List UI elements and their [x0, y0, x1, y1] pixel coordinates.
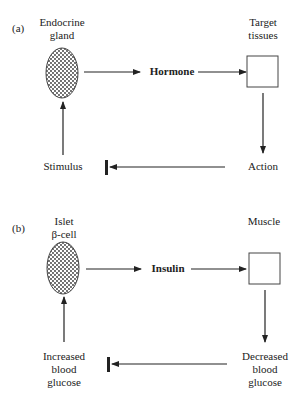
muscle-box [249, 253, 280, 284]
increased-blood-glucose-label: Increased blood glucose [34, 350, 94, 389]
label-line: β-cell [34, 228, 94, 241]
decreased-blood-glucose-label: Decreased blood glucose [234, 350, 296, 389]
label-line: Islet [34, 215, 94, 228]
label-line: tissues [233, 29, 293, 42]
islet-beta-cell-label: Islet β-cell [34, 215, 94, 241]
label-line: Endocrine [32, 16, 92, 29]
target-tissues-box [247, 56, 278, 87]
panel-b-label: (b) [12, 222, 25, 234]
label-line: blood [34, 363, 94, 376]
islet-beta-cell-shape [47, 242, 79, 294]
inhibition-bar [105, 160, 108, 175]
hormone-label: Hormone [144, 65, 200, 78]
label-line: Decreased [234, 350, 296, 363]
label-line: glucose [34, 376, 94, 389]
endocrine-gland-shape [46, 48, 78, 98]
label-line: blood [234, 363, 296, 376]
muscle-label: Muscle [234, 215, 294, 228]
label-line: gland [32, 29, 92, 42]
diagram-graphics [0, 0, 300, 403]
target-tissues-label: Target tissues [233, 16, 293, 42]
label-line: Target [233, 16, 293, 29]
label-line: glucose [234, 376, 296, 389]
panel-a-label: (a) [12, 22, 24, 34]
label-line: Increased [34, 350, 94, 363]
action-label: Action [233, 160, 293, 173]
stimulus-label: Stimulus [33, 160, 93, 173]
inhibition-bar [107, 357, 110, 372]
endocrine-gland-label: Endocrine gland [32, 16, 92, 42]
insulin-label: Insulin [145, 262, 191, 275]
